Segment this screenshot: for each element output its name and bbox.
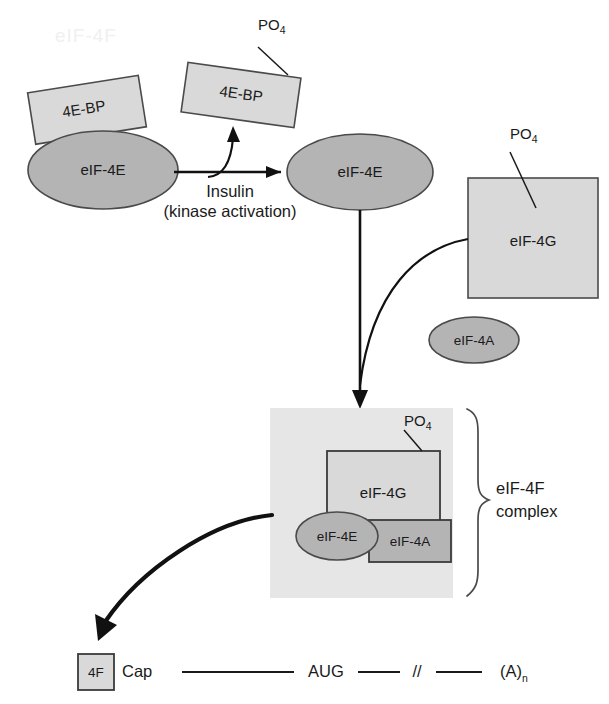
- stage-bound-group: 4E-BP eIF-4E: [28, 75, 178, 209]
- eif4g-phosphate-subscript: 4: [532, 133, 538, 145]
- complex-to-mrna-arrow-group: [95, 515, 272, 641]
- complex-eif4a-label: eIF-4A: [390, 534, 431, 549]
- complex-brace-label-line2: complex: [496, 502, 558, 520]
- mrna-polya-label: (A)n: [500, 662, 528, 683]
- watermark-label: eIF-4F: [55, 25, 117, 46]
- mrna-polya-subscript: n: [522, 672, 528, 684]
- eif4f-complex-group: eIF-4G eIF-4A eIF-4E PO4 eIF-4F complex: [270, 408, 558, 598]
- complex-eif4g-label: eIF-4G: [360, 484, 407, 501]
- stage-released-4ebp-group: 4E-BP PO4: [181, 16, 301, 128]
- free-eif4e-label: eIF-4E: [337, 163, 382, 180]
- eif4g-phosphate-label: PO4: [510, 125, 538, 145]
- free-eif4g-group: eIF-4G PO4: [468, 125, 598, 298]
- free-eif4a-group: eIF-4A: [429, 317, 519, 363]
- free-eif4g-label: eIF-4G: [510, 232, 557, 249]
- complex-phosphate-subscript: 4: [426, 420, 432, 432]
- diagram-canvas: eIF-4F 4E-BP eIF-4E Insulin (kinase acti…: [0, 0, 609, 704]
- eif4g-join-curve: [360, 239, 468, 385]
- insulin-label-line2: (kinase activation): [164, 202, 297, 220]
- mrna-break-label: //: [412, 662, 422, 680]
- released-phosphate-leader-line: [258, 47, 288, 75]
- mrna-cap-label: Cap: [122, 662, 152, 680]
- released-phosphate-subscript: 4: [280, 24, 286, 36]
- mrna-strand-group: 4F Cap AUG // (A)n: [78, 654, 528, 690]
- released-phosphate-label: PO4: [258, 16, 286, 36]
- assembly-flow-group: [352, 210, 468, 409]
- complex-to-mrna-arrow-shaft: [105, 515, 272, 622]
- complex-brace: [467, 409, 489, 596]
- eif4f-pathway-diagram: eIF-4F 4E-BP eIF-4E Insulin (kinase acti…: [0, 0, 609, 704]
- mrna-start-codon-label: AUG: [308, 662, 344, 680]
- release-branch-arrow-head: [227, 126, 240, 142]
- insulin-arrow-head: [266, 166, 281, 178]
- free-eif4a-label: eIF-4A: [454, 333, 495, 348]
- stage-free-eif4e-group: eIF-4E: [287, 134, 433, 210]
- assembly-arrow-head: [352, 390, 368, 409]
- complex-eif4e-label: eIF-4E: [317, 529, 358, 544]
- watermark-ghost-text: eIF-4F: [55, 25, 117, 46]
- mrna-4f-tag-label: 4F: [88, 665, 104, 680]
- complex-brace-label-line1: eIF-4F: [496, 479, 545, 497]
- insulin-reaction-group: Insulin (kinase activation): [164, 126, 297, 220]
- bound-eif4e-label: eIF-4E: [80, 161, 125, 178]
- insulin-label-line1: Insulin: [206, 182, 254, 200]
